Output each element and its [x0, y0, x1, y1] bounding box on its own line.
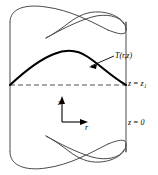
bottom-cap-front-arc — [10, 144, 108, 169]
axis-r-label-text: r — [85, 123, 88, 132]
plane-z0-label-text: z = 0 — [128, 118, 145, 127]
coordinate-axes — [59, 96, 88, 125]
top-cap-back-arc — [10, 6, 108, 30]
axis-z-label-text: z — [58, 98, 61, 107]
plane-z1-label: z = z₁ — [128, 80, 146, 88]
axis-r-label: r — [85, 124, 88, 132]
cylinder-body — [10, 22, 126, 152]
top-cap-right-lobe — [70, 12, 126, 34]
cylinder-top-cap — [10, 6, 126, 38]
temperature-profile-label: T(r,z) — [115, 52, 132, 60]
plane-z0-label: z = 0 — [128, 119, 145, 127]
temperature-profile-label-text: T(r,z) — [115, 51, 132, 60]
temperature-profile-curve — [10, 51, 126, 85]
plane-z1-label-text: z = z₁ — [128, 79, 146, 88]
cylinder-temperature-figure: T(r,z) z = z₁ z = 0 z r — [0, 0, 158, 175]
axis-z-label: z — [58, 99, 61, 107]
cylinder-bottom-cap — [10, 136, 126, 169]
